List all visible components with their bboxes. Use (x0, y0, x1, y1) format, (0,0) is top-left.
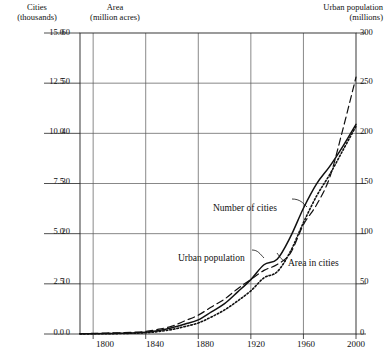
chart-plot (0, 0, 385, 360)
series-layer (80, 77, 356, 334)
axis-tick-marks (44, 33, 366, 339)
gridlines (80, 33, 356, 334)
leader-urban-population (252, 250, 264, 258)
series-line-number-of-cities (80, 77, 356, 333)
series-line-urban-population (80, 124, 356, 333)
annotation-leader-lines (252, 199, 307, 261)
